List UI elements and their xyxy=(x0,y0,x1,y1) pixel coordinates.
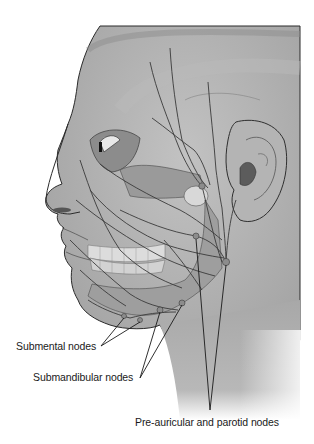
teeth xyxy=(88,244,165,274)
preauricular-node xyxy=(199,183,205,189)
submental-node xyxy=(122,314,127,319)
submental-nodes-label: Submental nodes xyxy=(16,340,96,352)
submental-node xyxy=(138,318,143,323)
parotid-node xyxy=(193,233,199,239)
preauricular-parotid-nodes-label: Pre-auricular and parotid nodes xyxy=(135,416,279,428)
submandibular-nodes-label: Submandibular nodes xyxy=(33,371,133,383)
parotid-node xyxy=(222,258,229,265)
